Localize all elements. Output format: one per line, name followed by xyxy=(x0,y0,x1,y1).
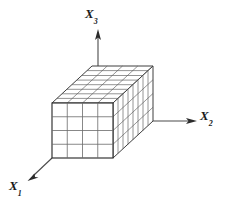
axis-label-x1: X1 xyxy=(9,178,22,196)
axis-x1 xyxy=(28,158,53,181)
axis-label-x3-base: X xyxy=(85,6,94,21)
axis-label-x2: X2 xyxy=(200,108,213,126)
box-front-face xyxy=(52,103,113,158)
figure-canvas: X3 X2 X1 xyxy=(0,0,225,210)
axis-x1-line xyxy=(33,158,52,176)
axis-label-x1-base: X xyxy=(9,178,18,193)
axis-label-x1-subscript: 1 xyxy=(18,189,22,198)
cuboid-diagram xyxy=(0,0,225,210)
axis-label-x3-subscript: 3 xyxy=(94,17,98,26)
axis-x1-arrowhead xyxy=(28,174,39,182)
axis-x2 xyxy=(150,118,197,124)
axis-label-x2-subscript: 2 xyxy=(209,119,213,128)
axis-label-x2-base: X xyxy=(200,108,209,123)
axis-label-x3: X3 xyxy=(85,6,98,24)
